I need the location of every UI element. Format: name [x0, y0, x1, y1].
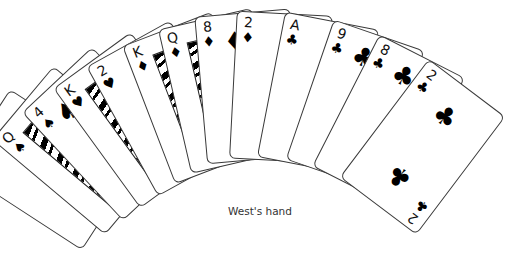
club-icon: ♣ [370, 54, 388, 72]
caption: West's hand [228, 205, 292, 217]
diamond-icon: ♦ [135, 57, 152, 75]
heart-icon: ♥ [69, 93, 87, 112]
spade-icon: ♠ [39, 114, 58, 133]
club-icon: ♣ [285, 31, 300, 47]
diamond-icon: ♦ [202, 34, 216, 49]
card-rank: 8 [202, 19, 212, 34]
card-rank: 2 [244, 15, 254, 29]
club-icon: ♣ [428, 99, 462, 134]
diamond-icon: ♦ [168, 44, 183, 60]
club-icon: ♣ [329, 39, 345, 56]
heart-icon: ♥ [101, 74, 119, 92]
spade-icon: ♠ [10, 138, 29, 157]
diamond-icon: ♦ [241, 30, 254, 45]
club-icon: ♣ [382, 160, 416, 195]
